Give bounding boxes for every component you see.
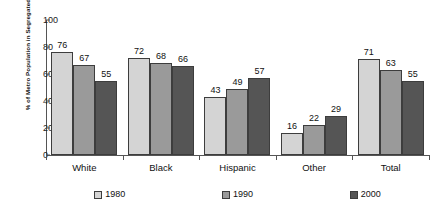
- legend-item-label: 1980: [105, 190, 125, 199]
- bar-value-label: 66: [178, 55, 188, 64]
- bar-value-label: 29: [331, 105, 341, 114]
- legend-swatch-icon: [94, 191, 102, 199]
- bar-slot: 55: [402, 20, 424, 155]
- bar: [95, 81, 117, 155]
- bar: [248, 78, 270, 155]
- x-axis-category-label: White: [46, 162, 123, 173]
- bar: [172, 66, 194, 155]
- bar-slot: 68: [150, 20, 172, 155]
- bar-value-label: 67: [79, 54, 89, 63]
- bar: [128, 58, 150, 155]
- bar-slot: 63: [380, 20, 402, 155]
- bar: [303, 125, 325, 155]
- bar-value-label: 22: [309, 114, 319, 123]
- bar-value-label: 49: [232, 78, 242, 87]
- bar: [150, 63, 172, 155]
- legend-swatch-icon: [350, 191, 358, 199]
- x-axis-tick-mark: [123, 155, 124, 160]
- x-axis-line: [46, 155, 429, 156]
- bar-value-label: 55: [101, 70, 111, 79]
- x-axis-tick-mark: [199, 155, 200, 160]
- bar-value-label: 72: [134, 47, 144, 56]
- x-axis-category-labels: WhiteBlackHispanicOtherTotal: [46, 162, 429, 173]
- bar-value-label: 63: [386, 59, 396, 68]
- bar: [281, 133, 303, 155]
- x-axis-category-label: Other: [276, 162, 353, 173]
- bar-group: 162229: [276, 20, 353, 155]
- x-axis-category-label: Black: [123, 162, 200, 173]
- bar-slot: 43: [204, 20, 226, 155]
- legend-item-label: 1990: [233, 190, 253, 199]
- bar: [358, 59, 380, 155]
- bar-slot: 67: [73, 20, 95, 155]
- bar-chart: % of Metro Population in Segregated Sett…: [0, 0, 433, 210]
- bar-slot: 71: [358, 20, 380, 155]
- bar-slot: 22: [303, 20, 325, 155]
- bar-slot: 76: [51, 20, 73, 155]
- bar: [402, 81, 424, 155]
- bar-value-label: 16: [287, 122, 297, 131]
- x-axis-tick-mark: [352, 155, 353, 160]
- bar-slot: 16: [281, 20, 303, 155]
- legend-swatch-icon: [222, 191, 230, 199]
- bar-value-label: 57: [254, 67, 264, 76]
- bar-group: 766755: [46, 20, 123, 155]
- legend-item[interactable]: 1980: [46, 190, 174, 199]
- legend-item-label: 2000: [361, 190, 381, 199]
- x-axis-category-label: Hispanic: [199, 162, 276, 173]
- bar-value-label: 68: [156, 52, 166, 61]
- bar-slot: 29: [325, 20, 347, 155]
- x-axis-tick-mark: [276, 155, 277, 160]
- x-axis-category-label: Total: [352, 162, 429, 173]
- bar-slot: 57: [248, 20, 270, 155]
- legend-item[interactable]: 1990: [174, 190, 302, 199]
- bar-group: 726866: [123, 20, 200, 155]
- bar: [73, 65, 95, 155]
- bar: [51, 52, 73, 155]
- bar-value-label: 43: [210, 86, 220, 95]
- bar-value-label: 71: [364, 48, 374, 57]
- bar: [204, 97, 226, 155]
- bar-group: 716355: [352, 20, 429, 155]
- y-axis-title: % of Metro Population in Segregated Sett…: [25, 0, 31, 121]
- bar: [380, 70, 402, 155]
- bar: [226, 89, 248, 155]
- bar-slot: 55: [95, 20, 117, 155]
- chart-legend: 198019902000: [46, 190, 429, 199]
- bar-slot: 72: [128, 20, 150, 155]
- bar-group: 434957: [199, 20, 276, 155]
- x-axis-tick-mark: [429, 155, 430, 160]
- bar-groups: 766755726866434957162229716355: [46, 20, 429, 155]
- legend-item[interactable]: 2000: [301, 190, 429, 199]
- bar-value-label: 76: [57, 41, 67, 50]
- x-axis-tick-mark: [46, 155, 47, 160]
- bar-value-label: 55: [408, 70, 418, 79]
- bar-slot: 66: [172, 20, 194, 155]
- bar: [325, 116, 347, 155]
- bar-slot: 49: [226, 20, 248, 155]
